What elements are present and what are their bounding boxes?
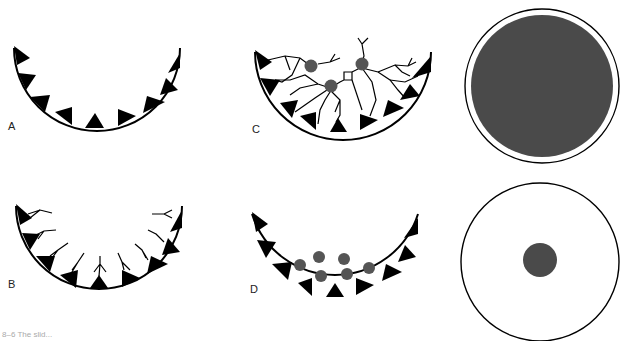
panel-label-d: D: [250, 283, 258, 295]
panel-label-c: C: [252, 123, 260, 135]
panel-c-diagram: [255, 38, 431, 140]
top-circle: [465, 9, 619, 163]
panel-a-diagram: [14, 46, 180, 131]
figure-canvas: [0, 0, 635, 341]
figure-caption: 8–6 The slid...: [2, 330, 52, 339]
panel-label-b: B: [8, 278, 15, 290]
panel-label-a: A: [8, 120, 15, 132]
bottom-circle: [461, 183, 619, 341]
panel-d-diagram: [252, 212, 418, 297]
panel-b-diagram: [16, 204, 182, 289]
